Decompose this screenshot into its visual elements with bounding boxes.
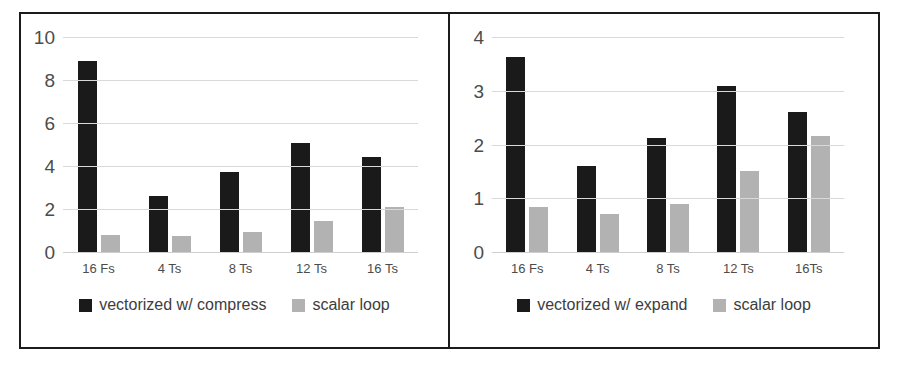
bar — [717, 86, 736, 252]
chart-panels: 16 Fs4 Ts8 Ts12 Ts16 Ts 0246810 vectoriz… — [19, 12, 880, 349]
gridline — [63, 209, 418, 210]
plot-area-right: 16 Fs4 Ts8 Ts12 Ts16Ts 01234 — [492, 37, 844, 252]
y-axis-tick-label: 6 — [44, 114, 55, 133]
legend-item-vectorized-compress: vectorized w/ compress — [79, 296, 266, 314]
x-axis-tick-label: 12 Ts — [703, 261, 773, 276]
gridline — [492, 37, 844, 38]
black-square-swatch-icon — [79, 299, 92, 312]
y-axis-tick-label: 4 — [473, 28, 484, 47]
y-axis-tick-label: 8 — [44, 71, 55, 90]
bar — [600, 214, 619, 252]
x-axis-tick-label: 16 Fs — [492, 261, 562, 276]
x-axis-tick-label: 4 Ts — [134, 261, 205, 276]
gridline — [492, 252, 844, 253]
y-axis-tick-label: 4 — [44, 157, 55, 176]
y-axis-tick-label: 0 — [44, 243, 55, 262]
legend-item-scalar-loop: scalar loop — [292, 296, 389, 314]
bar — [220, 172, 239, 252]
bar — [577, 166, 596, 252]
black-square-swatch-icon — [517, 299, 530, 312]
y-axis-tick-label: 1 — [473, 189, 484, 208]
bar — [362, 157, 381, 252]
bar — [314, 221, 333, 252]
gridline — [63, 166, 418, 167]
gridline — [492, 145, 844, 146]
gray-square-swatch-icon — [292, 299, 305, 312]
legend-item-vectorized-expand: vectorized w/ expand — [517, 296, 687, 314]
legend-label-scalar-loop: scalar loop — [733, 296, 810, 314]
bar-group-container-left — [63, 37, 418, 252]
bar — [788, 112, 807, 252]
bar — [172, 236, 191, 252]
gridline — [63, 37, 418, 38]
bar — [529, 207, 548, 252]
bar — [291, 143, 310, 252]
legend-label-scalar-loop: scalar loop — [312, 296, 389, 314]
bar — [385, 207, 404, 252]
x-axis-tick-label: 16Ts — [774, 261, 844, 276]
gridline — [63, 123, 418, 124]
bar-group — [276, 37, 347, 252]
bar-group — [205, 37, 276, 252]
bar — [740, 171, 759, 252]
bar-group — [63, 37, 134, 252]
legend-label-vectorized-expand: vectorized w/ expand — [537, 296, 687, 314]
bar-group — [347, 37, 418, 252]
bar — [811, 136, 830, 252]
x-axis-tick-labels-right: 16 Fs4 Ts8 Ts12 Ts16Ts — [492, 261, 844, 276]
y-axis-tick-label: 3 — [473, 81, 484, 100]
gridline — [492, 198, 844, 199]
y-axis-tick-label: 2 — [473, 135, 484, 154]
bar — [78, 61, 97, 252]
legend-left: vectorized w/ compress scalar loop — [21, 296, 448, 314]
chart-panel-left: 16 Fs4 Ts8 Ts12 Ts16 Ts 0246810 vectoriz… — [21, 14, 450, 347]
legend-label-vectorized-compress: vectorized w/ compress — [99, 296, 266, 314]
y-axis-tick-label: 10 — [34, 28, 55, 47]
plot-area-left: 16 Fs4 Ts8 Ts12 Ts16 Ts 0246810 — [63, 37, 418, 252]
x-axis-tick-label: 4 Ts — [562, 261, 632, 276]
legend-right: vectorized w/ expand scalar loop — [450, 296, 878, 314]
gridline — [492, 91, 844, 92]
x-axis-tick-label: 16 Ts — [347, 261, 418, 276]
x-axis-tick-label: 12 Ts — [276, 261, 347, 276]
legend-item-scalar-loop: scalar loop — [713, 296, 810, 314]
y-axis-tick-label: 2 — [44, 200, 55, 219]
bar — [101, 235, 120, 252]
bar — [149, 196, 168, 252]
bar — [243, 232, 262, 252]
figure-container: 16 Fs4 Ts8 Ts12 Ts16 Ts 0246810 vectoriz… — [0, 0, 901, 378]
chart-panel-right: 16 Fs4 Ts8 Ts12 Ts16Ts 01234 vectorized … — [450, 14, 878, 347]
x-axis-tick-label: 16 Fs — [63, 261, 134, 276]
bar — [670, 204, 689, 252]
x-axis-tick-label: 8 Ts — [633, 261, 703, 276]
bar — [506, 57, 525, 252]
bar-group — [134, 37, 205, 252]
y-axis-tick-label: 0 — [473, 243, 484, 262]
bar — [647, 138, 666, 252]
gray-square-swatch-icon — [713, 299, 726, 312]
x-axis-tick-labels-left: 16 Fs4 Ts8 Ts12 Ts16 Ts — [63, 261, 418, 276]
gridline — [63, 252, 418, 253]
gridline — [63, 80, 418, 81]
x-axis-tick-label: 8 Ts — [205, 261, 276, 276]
